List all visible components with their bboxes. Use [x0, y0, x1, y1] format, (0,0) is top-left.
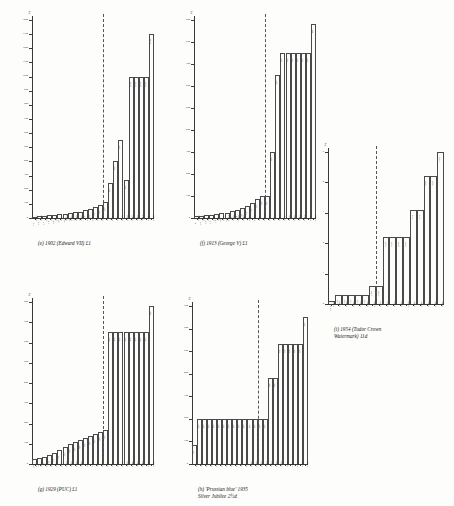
bar-value-h-19: 530 [289, 346, 292, 357]
bar-value-h-5: 200 [218, 421, 221, 432]
bar-value-e-20: 1000 [135, 78, 138, 89]
y-tick-label-h-4: 400 [175, 372, 188, 375]
y-tick-label-f-3: 300 [177, 151, 190, 154]
y-tick-h-3 [189, 396, 192, 397]
y-tick-label-i-0: 0 [311, 303, 324, 306]
y-tick-label-f-8: 800 [177, 41, 190, 44]
bar-value-g-9: 120 [79, 442, 82, 453]
y-tick-label-h-0: 0 [175, 463, 188, 466]
y-tick-i-3 [325, 213, 328, 214]
y-tick-f-3 [191, 152, 194, 153]
bar-value-h-18: 530 [284, 346, 287, 357]
y-tick-e-11 [29, 62, 32, 63]
bar-value-f-22: 750 [307, 55, 310, 66]
y-tick-label-f-4: 400 [177, 129, 190, 132]
y-tick-label-f-9: 900 [177, 19, 190, 22]
chart-panel-g: £010020030040050060070080025193530194035… [10, 292, 160, 502]
bar-value-i-12: 3.10 [412, 212, 415, 223]
bar-value-h-11: 200 [249, 421, 252, 432]
y-tick-label-e-14: 1400 [15, 19, 28, 22]
bar-value-i-13: 3.10 [419, 212, 422, 223]
y-axis-label-e: £ [29, 10, 31, 15]
bar-value-g-11: 140 [89, 437, 92, 448]
y-tick-label-e-0: 0 [15, 217, 28, 220]
y-tick-label-i-5: 5 [311, 151, 324, 154]
bar-value-h-15: 380 [269, 380, 272, 391]
reference-line-f [265, 14, 266, 218]
bar-value-e-18: 270 [125, 182, 128, 193]
y-tick-g-7 [29, 322, 32, 323]
bar-value-f-20: 750 [297, 55, 300, 66]
bar-value-h-0: 85 [193, 447, 196, 458]
bar-value-h-14: 200 [264, 421, 267, 432]
y-axis-label-f: £ [191, 10, 193, 15]
reference-line-i [376, 146, 377, 304]
y-tick-h-4 [189, 374, 192, 375]
y-tick-f-4 [191, 130, 194, 131]
bar-value-g-7: 100 [69, 446, 72, 457]
bar-value-g-20: 650 [135, 334, 138, 345]
bar-value-g-6: 85 [64, 449, 67, 460]
y-tick-f-9 [191, 20, 194, 21]
y-axis-label-i: £ [325, 142, 327, 147]
bar-value-h-7: 200 [228, 421, 231, 432]
bar-value-f-15: 300 [271, 154, 274, 165]
bar-value-f-12: 85 [256, 201, 259, 212]
y-tick-label-g-3: 300 [15, 402, 28, 405]
y-axis-f [194, 16, 195, 218]
bar-value-h-16: 380 [274, 380, 277, 391]
y-tick-label-e-5: 500 [15, 146, 28, 149]
chart-panel-i: £0123450.1019560.3019580.3019600.3019620… [306, 142, 454, 340]
y-tick-e-6 [29, 133, 32, 134]
bar-value-g-8: 110 [74, 444, 77, 455]
bar-value-i-9: 2.20 [391, 239, 394, 250]
bar-value-e-23: 1300 [150, 36, 153, 47]
y-tick-label-f-2: 200 [177, 173, 190, 176]
y-tick-e-2 [29, 190, 32, 191]
caption-text-i: 1954 (Tudor Crown Watermark) 11d [334, 326, 381, 339]
y-tick-e-3 [29, 176, 32, 177]
x-tick-label-i-16: 1988 [442, 301, 445, 307]
bar-value-f-23: 880 [312, 26, 315, 37]
y-tick-g-3 [29, 403, 32, 404]
y-axis-g [32, 298, 33, 464]
bar-value-e-22: 1000 [145, 78, 148, 89]
bar-value-h-2: 200 [203, 421, 206, 432]
bar-value-f-18: 750 [287, 55, 290, 66]
reference-line-g [103, 296, 104, 464]
bar-i-15 [430, 176, 437, 304]
y-tick-g-4 [29, 383, 32, 384]
bar-value-g-19: 650 [130, 334, 133, 345]
bar-value-h-17: 530 [279, 346, 282, 357]
bar-value-h-21: 530 [299, 346, 302, 357]
x-tick-label-h-22: 1988 [307, 461, 310, 467]
y-tick-label-g-6: 600 [15, 341, 28, 344]
bar-value-e-21: 1000 [140, 78, 143, 89]
y-tick-label-e-7: 700 [15, 118, 28, 121]
y-tick-h-6 [189, 329, 192, 330]
chart-panel-f: £010020030040050060070080090081935101940… [172, 8, 322, 248]
bar-value-g-23: 780 [150, 308, 153, 319]
bar-value-g-14: 170 [104, 431, 107, 442]
y-tick-label-i-3: 3 [311, 211, 324, 214]
y-tick-label-g-7: 700 [15, 321, 28, 324]
y-tick-label-g-1: 100 [15, 442, 28, 445]
caption-text-f: 1913 (George V) £1 [206, 240, 247, 246]
y-tick-g-2 [29, 424, 32, 425]
y-tick-e-0 [29, 218, 32, 219]
y-tick-i-2 [325, 243, 328, 244]
bar-value-g-15: 650 [109, 334, 112, 345]
y-tick-label-e-8: 800 [15, 103, 28, 106]
y-tick-label-e-11: 1100 [15, 61, 28, 64]
caption-text-e: 1902 (Edward VII) £1 [45, 240, 91, 246]
bar-value-g-21: 650 [140, 334, 143, 345]
bar-value-h-12: 200 [254, 421, 257, 432]
y-tick-label-i-1: 1 [311, 272, 324, 275]
bar-i-14 [424, 176, 431, 304]
y-tick-f-8 [191, 42, 194, 43]
y-tick-i-1 [325, 274, 328, 275]
bar-value-i-11: 2.20 [405, 239, 408, 250]
y-axis-h [192, 302, 193, 464]
chart-caption-g: (g) 1929 (PUC) £1 [38, 486, 170, 493]
y-tick-f-0 [191, 218, 194, 219]
